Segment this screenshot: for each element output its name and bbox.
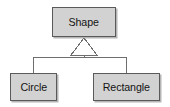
uml-class-rectangle[interactable]: Rectangle <box>93 73 160 101</box>
uml-class-shape-label: Shape <box>69 17 99 28</box>
uml-class-rectangle-label: Rectangle <box>103 82 150 93</box>
uml-inheritance-diagram: Shape Circle Rectangle <box>0 0 170 107</box>
uml-class-shape[interactable]: Shape <box>52 7 116 37</box>
uml-class-circle[interactable]: Circle <box>10 73 57 101</box>
generalization-arrowhead-icon <box>71 38 97 55</box>
uml-class-circle-label: Circle <box>20 82 47 93</box>
